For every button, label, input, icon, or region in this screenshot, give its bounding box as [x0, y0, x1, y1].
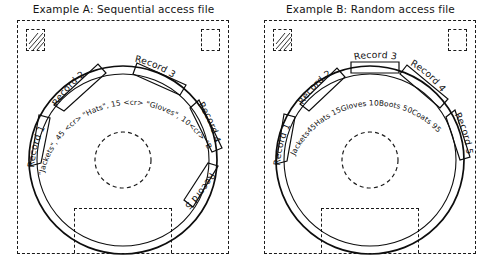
panel-example-b: Example B: Random access file: [247, 0, 494, 266]
panel-b-disc: Record 1 Record 2 Record 3 Record 4 Reco…: [247, 0, 494, 266]
diagram-stage: Example A: Sequential access file: [0, 0, 494, 266]
panel-a-record-2-label: Record 2: [49, 68, 86, 107]
panel-b-record-4-label: Record 4: [409, 57, 449, 94]
panel-b-record-2-label: Record 2: [295, 67, 333, 106]
panel-a-record-5-label: Record 5: [183, 171, 218, 212]
panel-b-track-content: Jackets45Hats 15Gloves 10Boots 50Coats 9…: [288, 98, 443, 157]
panel-example-a: Example A: Sequential access file: [0, 0, 247, 266]
panel-b-record-3-label: Record 3: [353, 49, 398, 62]
panel-a-disc: Record 1 Record 2 Record 3 Record 4 Reco…: [0, 0, 247, 266]
